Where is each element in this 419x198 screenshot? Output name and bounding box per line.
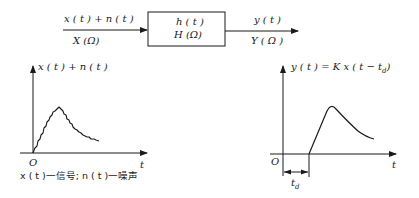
right-y-axis-text: y ( t ) = K x ( t − t: [291, 61, 382, 72]
output-freq-label: Y ( Ω ): [251, 36, 283, 46]
delay-label: td: [291, 178, 300, 191]
delay-bracket: [284, 154, 309, 177]
right-y-axis-label: y ( t ) = K x ( t − td): [291, 62, 390, 75]
output-time-label: y ( t ): [254, 15, 281, 25]
right-y-axis-close: ): [387, 61, 391, 72]
right-origin-label: O: [271, 157, 279, 167]
noisy-signal-curve: [33, 107, 99, 153]
right-x-axis-label: t: [392, 160, 396, 170]
left-y-axis-label: x ( t ) + n ( t ): [38, 62, 108, 72]
caption-text: x ( t )一信号; n ( t )一噪声: [20, 170, 138, 181]
delayed-signal-curve: [309, 106, 374, 154]
right-plot-axes: [270, 66, 396, 176]
system-time-label: h ( t ): [176, 17, 204, 27]
left-origin-label: O: [29, 158, 37, 168]
input-time-label: x ( t ) + n ( t ): [64, 14, 134, 24]
left-x-axis-label: t: [140, 160, 144, 170]
input-freq-label: X (Ω): [73, 36, 99, 46]
system-freq-label: H (Ω): [174, 30, 202, 40]
delay-label-sub: d: [295, 183, 299, 191]
diagram-canvas: [0, 0, 419, 198]
left-caption: x ( t )一信号; n ( t )一噪声: [20, 171, 138, 181]
